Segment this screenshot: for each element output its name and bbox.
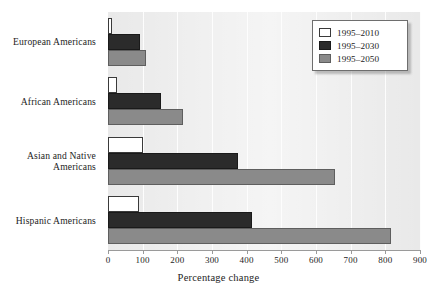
category-label-line: African Americans bbox=[0, 96, 96, 107]
legend-label: 1995–2050 bbox=[337, 54, 379, 64]
bar-group bbox=[108, 137, 420, 185]
legend-item: 1995–2050 bbox=[319, 52, 401, 65]
x-axis-tick-mark bbox=[281, 250, 282, 254]
y-axis-category-label: Asian and NativeAmericans bbox=[0, 150, 96, 172]
bar bbox=[108, 212, 252, 228]
x-axis-tick-label: 500 bbox=[274, 255, 288, 265]
x-axis-tick-mark bbox=[247, 250, 248, 254]
bar bbox=[108, 169, 335, 185]
bar bbox=[108, 196, 139, 212]
x-axis-tick-mark bbox=[420, 250, 421, 254]
x-axis-tick-label: 600 bbox=[309, 255, 323, 265]
bar-chart-figure: 0100200300400500600700800900 European Am… bbox=[0, 0, 437, 301]
x-axis-tick-label: 400 bbox=[240, 255, 254, 265]
x-axis-tick-mark bbox=[351, 250, 352, 254]
x-axis-tick-mark bbox=[316, 250, 317, 254]
legend-swatch bbox=[319, 41, 331, 50]
bar bbox=[108, 93, 161, 109]
bar bbox=[108, 228, 391, 244]
x-axis-line bbox=[108, 250, 421, 251]
x-axis-tick-mark bbox=[108, 250, 109, 254]
x-axis-tick-label: 200 bbox=[170, 255, 184, 265]
legend-swatch bbox=[319, 54, 331, 63]
chart-legend: 1995–20101995–20301995–2050 bbox=[312, 20, 408, 71]
x-axis-tick-label: 800 bbox=[378, 255, 392, 265]
category-label-line: European Americans bbox=[0, 36, 96, 47]
legend-label: 1995–2010 bbox=[337, 28, 379, 38]
x-axis-tick-mark bbox=[143, 250, 144, 254]
gridline bbox=[420, 12, 421, 250]
category-label-line: Asian and Native bbox=[0, 150, 96, 161]
x-axis-tick-label: 300 bbox=[205, 255, 219, 265]
x-axis-tick-label: 100 bbox=[136, 255, 150, 265]
legend-swatch bbox=[319, 28, 331, 37]
bar bbox=[108, 77, 117, 93]
category-label-line: Americans bbox=[0, 161, 96, 172]
bar bbox=[108, 34, 140, 50]
x-axis-tick-label: 700 bbox=[344, 255, 358, 265]
x-axis-tick-mark bbox=[212, 250, 213, 254]
x-axis-tick-mark bbox=[385, 250, 386, 254]
legend-item: 1995–2030 bbox=[319, 39, 401, 52]
x-axis-tick-mark bbox=[177, 250, 178, 254]
bar bbox=[108, 153, 238, 169]
bar bbox=[108, 50, 146, 66]
bar bbox=[108, 137, 143, 153]
y-axis-category-label: African Americans bbox=[0, 96, 96, 107]
x-axis-tick-label: 0 bbox=[106, 255, 111, 265]
bar-group bbox=[108, 196, 420, 244]
bar-group bbox=[108, 77, 420, 125]
x-axis-tick-label: 900 bbox=[413, 255, 427, 265]
legend-item: 1995–2010 bbox=[319, 26, 401, 39]
y-axis-category-label: Hispanic Americans bbox=[0, 215, 96, 226]
bar bbox=[108, 18, 112, 34]
x-axis-title: Percentage change bbox=[0, 272, 437, 283]
bar bbox=[108, 109, 183, 125]
legend-label: 1995–2030 bbox=[337, 41, 379, 51]
y-axis-category-label: European Americans bbox=[0, 36, 96, 47]
category-label-line: Hispanic Americans bbox=[0, 215, 96, 226]
